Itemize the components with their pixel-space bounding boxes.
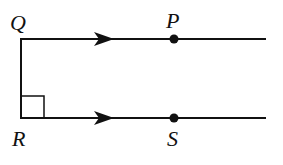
label-p: P	[165, 8, 179, 33]
label-q: Q	[10, 10, 26, 35]
label-r: R	[11, 126, 26, 151]
diagram-canvas: Q P R S	[0, 0, 283, 165]
right-angle-marker	[21, 96, 44, 118]
point-s	[170, 114, 179, 123]
point-p	[170, 35, 179, 44]
geometry-diagram: Q P R S	[0, 0, 283, 165]
label-s: S	[167, 126, 178, 151]
